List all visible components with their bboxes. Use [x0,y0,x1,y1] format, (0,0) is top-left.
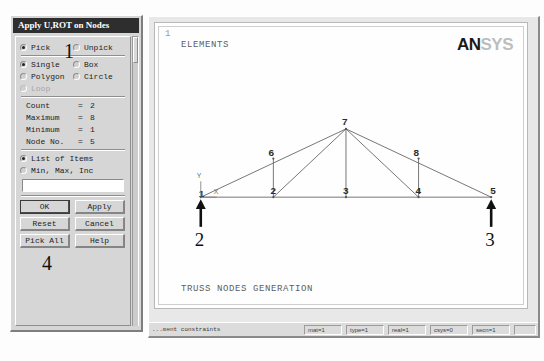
info-label-count: Count [26,101,78,110]
radio-min-max-inc-indicator[interactable] [20,167,27,174]
radio-circle-indicator[interactable] [73,73,80,80]
dialog-body: Pick Unpick Single Box Polygon [15,36,131,326]
shape-radio-row-2: Polygon Circle [20,72,126,81]
axis-label-x: X [214,188,219,195]
truss-node-marker[interactable] [490,196,492,198]
info-eq-node-no: = [78,137,90,146]
info-row-count: Count = 2 [26,101,126,110]
ansys-main-window: 1 ELEMENTS TRUSS NODES GENERATION ANSYS … [148,16,540,338]
info-label-node-no: Node No. [26,137,78,146]
radio-pick-indicator[interactable] [20,44,27,51]
truss-node-label: 5 [490,185,496,196]
graphics-frame: 1 ELEMENTS TRUSS NODES GENERATION ANSYS … [154,22,528,309]
info-row-node-no: Node No. = 5 [26,137,126,146]
truss-node-marker[interactable] [272,157,274,159]
truss-hand-annotations-group: 23 [195,229,495,250]
pick-input[interactable] [23,185,123,196]
truss-node-marker[interactable] [345,196,347,198]
truss-model-drawing: 12345678 23 Y X [159,27,523,304]
load-arrow-head [196,199,206,209]
status-cell-mat: mat=1 [304,325,342,335]
pick-all-button[interactable]: Pick All [20,234,70,248]
pick-input-wrapper[interactable] [22,179,124,192]
status-cell-extra [514,325,536,335]
list-mode-row-2: Min, Max, Inc [20,166,126,175]
axis-label-y: Y [197,172,202,179]
info-row-maximum: Maximum = 8 [26,113,126,122]
radio-circle[interactable]: Circle [73,72,126,81]
info-eq-minimum: = [78,125,90,134]
radio-list-of-items-label: List of Items [31,154,93,163]
dialog-scrollbar[interactable] [132,36,139,326]
radio-min-max-inc[interactable]: Min, Max, Inc [20,166,126,175]
status-cell-type: type=1 [346,325,384,335]
radio-unpick-indicator[interactable] [73,44,80,51]
hand-annotation-number: 3 [485,229,494,250]
annotation-marker-1: 1 [64,41,74,61]
radio-box[interactable]: Box [73,60,126,69]
radio-list-of-items-indicator[interactable] [20,155,27,162]
hand-annotation-number: 2 [195,229,204,250]
status-cell-real: real=1 [388,325,426,335]
graphics-canvas[interactable]: 1 ELEMENTS TRUSS NODES GENERATION ANSYS … [158,26,524,305]
radio-unpick[interactable]: Unpick [73,43,126,52]
list-mode-row-1: List of Items [20,154,126,163]
dialog-title: Apply U,ROT on Nodes [13,18,139,33]
cancel-button[interactable]: Cancel [75,217,125,231]
radio-loop-label: Loop [31,84,50,93]
truss-node-label: 6 [268,147,274,158]
radio-loop-indicator [20,85,27,92]
status-cell-secn: secn=1 [472,325,510,335]
info-value-count: 2 [90,101,95,110]
truss-node-marker[interactable] [345,128,347,130]
truss-node-label: 3 [343,185,349,196]
info-row-minimum: Minimum = 1 [26,125,126,134]
divider-3 [21,149,125,151]
truss-node-label: 8 [414,147,420,158]
radio-polygon-label: Polygon [31,72,65,81]
info-label-maximum: Maximum [26,113,78,122]
info-eq-count: = [78,101,90,110]
ok-button[interactable]: OK [20,200,70,214]
status-bar: ...ment constraints mat=1 type=1 real=1 … [149,322,538,336]
truss-node-marker[interactable] [417,157,419,159]
radio-circle-label: Circle [84,72,113,81]
info-value-minimum: 1 [90,125,95,134]
truss-element [346,129,419,197]
pick-info-block: Count = 2 Maximum = 8 Minimum = 1 Node N… [20,101,126,146]
pick-dialog: Apply U,ROT on Nodes Pick Unpick Single [10,15,143,332]
info-eq-maximum: = [78,113,90,122]
radio-polygon-indicator[interactable] [20,73,27,80]
status-message: ...ment constraints [149,326,302,333]
apply-button[interactable]: Apply [75,200,125,214]
reset-button[interactable]: Reset [20,217,70,231]
truss-node-label: 4 [416,185,422,196]
radio-unpick-label: Unpick [84,43,113,52]
info-value-maximum: 8 [90,113,95,122]
info-label-minimum: Minimum [26,125,78,134]
truss-node-marker[interactable] [272,196,274,198]
truss-node-labels-group: 12345678 [199,116,496,199]
annotation-marker-4: 4 [42,253,52,273]
truss-node-label: 2 [270,185,276,196]
truss-node-label: 7 [342,116,348,127]
shape-radio-row-3: Loop [20,84,126,93]
scrollbar-thumb[interactable] [133,37,138,63]
dialog-button-grid: OK Apply Reset Cancel Pick All Help [20,200,126,248]
truss-element [273,129,346,197]
radio-min-max-inc-label: Min, Max, Inc [31,166,93,175]
radio-loop: Loop [20,84,126,93]
radio-polygon[interactable]: Polygon [20,72,73,81]
help-button[interactable]: Help [75,234,125,248]
info-value-node-no: 5 [90,137,95,146]
divider-2 [21,96,125,98]
radio-list-of-items[interactable]: List of Items [20,154,126,163]
load-arrow-head [486,199,496,209]
radio-single-label: Single [31,60,60,69]
radio-box-indicator[interactable] [73,61,80,68]
truss-node-marker[interactable] [417,196,419,198]
radio-single-indicator[interactable] [20,61,27,68]
truss-load-arrows-group [196,199,496,227]
status-cell-csys: csys=0 [430,325,468,335]
radio-box-label: Box [84,60,98,69]
